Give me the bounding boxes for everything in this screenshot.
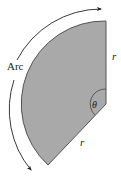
radius-label-top: r [112, 50, 117, 62]
radius-label-bottom: r [80, 136, 85, 148]
arc-label: Arc [7, 60, 24, 72]
sector-diagram: Arc r r θ [0, 0, 121, 182]
sector-shape [21, 21, 106, 165]
angle-theta-label: θ [92, 99, 97, 110]
